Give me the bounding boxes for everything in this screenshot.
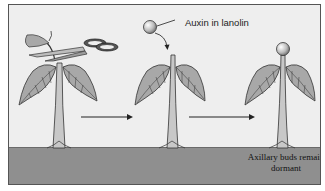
arrow-right-icon: [189, 114, 255, 120]
auxin-lanolin-ball: [144, 20, 176, 50]
plant-1: [19, 31, 97, 148]
result-label: Axillary buds remain dormant: [246, 152, 321, 174]
auxin-label: Auxin in lanolin: [185, 17, 249, 28]
diagram-frame: Auxin in lanolin Axillary buds remain do…: [8, 4, 321, 185]
plant-2: [135, 55, 205, 148]
arrow-right-icon: [81, 114, 133, 120]
plant-3: [245, 43, 315, 149]
